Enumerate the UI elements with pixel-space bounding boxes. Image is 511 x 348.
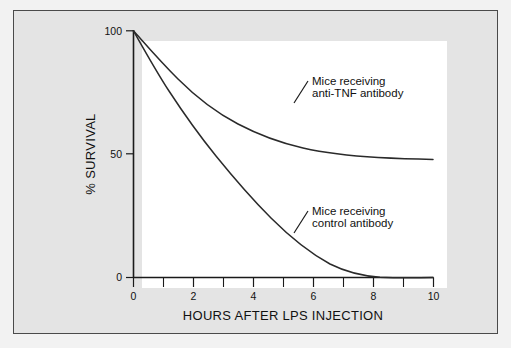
x-tick-label-2: 2 [191, 290, 197, 302]
x-tick-label-8: 8 [371, 290, 377, 302]
x-axis-title: HOURS AFTER LPS INJECTION [183, 308, 383, 323]
y-tick-label-0: 0 [116, 271, 122, 283]
survival-line-chart: 100 50 0 0 2 4 6 8 10 HOURS AFTER LPS IN… [0, 0, 511, 348]
y-tick-label-50: 50 [110, 148, 122, 160]
x-tick-marks [134, 278, 434, 288]
annotation-upper-line1: Mice receiving [312, 75, 386, 87]
data-curves [134, 31, 434, 278]
x-tick-label-0: 0 [131, 290, 137, 302]
axis-group [133, 30, 434, 278]
y-axis-title: % SURVIVAL [83, 113, 98, 194]
annotation-leader-line-upper [294, 81, 308, 103]
annotation-anti-tnf: Mice receiving anti-TNF antibody [294, 75, 404, 103]
y-tick-label-100: 100 [104, 25, 122, 37]
annotation-control: Mice receiving control antibody [294, 205, 393, 233]
annotation-lower-line1: Mice receiving [312, 205, 386, 217]
annotation-lower-line2: control antibody [312, 217, 393, 229]
curve-control-antibody [134, 31, 434, 278]
annotation-upper-line2: anti-TNF antibody [312, 87, 404, 99]
figure-canvas: 100 50 0 0 2 4 6 8 10 HOURS AFTER LPS IN… [0, 0, 511, 348]
x-tick-label-6: 6 [311, 290, 317, 302]
x-tick-label-4: 4 [251, 290, 257, 302]
y-tick-marks [126, 31, 134, 278]
x-tick-label-10: 10 [428, 290, 440, 302]
annotation-leader-line-lower [294, 211, 308, 233]
